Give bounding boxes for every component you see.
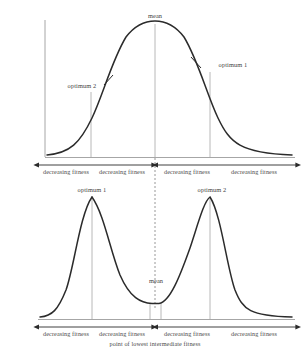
bottom-chart-caption: point of lowest intermediate fitness — [110, 340, 201, 347]
top-chart-optimum1-label: optimum 1 — [219, 61, 248, 68]
bottom-chart-optimum1-label: optimum 1 — [78, 186, 107, 193]
bottom-chart-segment-label-4: decreasing fitness — [231, 330, 277, 337]
top-chart-optimum2-label: optimum 2 — [68, 82, 97, 89]
top-chart-mean-label: mean — [148, 12, 162, 19]
bottom-chart-segment-label-2: decreasing fitness — [99, 330, 145, 337]
bottom-chart-segment-label-3: decreasing fitness — [164, 330, 210, 337]
figure-svg — [0, 0, 305, 351]
top-chart-segment-label-1: decreasing fitness — [43, 168, 89, 175]
bottom-chart-curve — [40, 197, 292, 317]
figure-canvas: mean optimum 1 optimum 2 decreasing fitn… — [0, 0, 305, 351]
top-chart-optimum1-leader — [191, 57, 201, 68]
bottom-chart-segment-label-1: decreasing fitness — [43, 330, 89, 337]
top-chart-segment-label-3: decreasing fitness — [164, 168, 210, 175]
bottom-chart-mean-label: mean — [149, 277, 163, 284]
top-chart-segment-label-2: decreasing fitness — [99, 168, 145, 175]
bottom-chart-optimum2-label: optimum 2 — [198, 186, 227, 193]
bottom-chart-group — [38, 196, 296, 327]
top-chart-segment-label-4: decreasing fitness — [231, 168, 277, 175]
top-chart-group — [39, 20, 296, 165]
